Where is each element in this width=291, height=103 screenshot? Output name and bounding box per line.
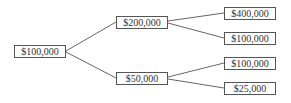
edge-n1-n4 (168, 23, 224, 38)
node-root: $100,000 (14, 45, 66, 58)
node-up-up: $400,000 (224, 7, 276, 20)
edge-n0-n1 (66, 22, 116, 51)
node-down: $50,000 (116, 72, 168, 85)
edge-n1-n3 (168, 13, 224, 21)
node-up: $200,000 (116, 16, 168, 29)
edge-n2-n6 (168, 79, 224, 88)
node-up-down: $100,000 (224, 32, 276, 45)
node-down-down: $25,000 (224, 82, 276, 95)
node-down-up: $100,000 (224, 57, 276, 70)
edge-n2-n5 (168, 63, 224, 77)
edge-n0-n2 (66, 52, 116, 78)
